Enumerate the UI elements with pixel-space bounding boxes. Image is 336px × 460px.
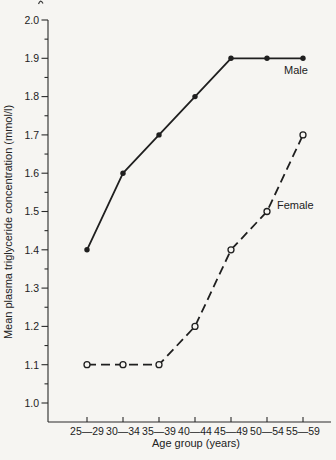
- male-line: [87, 58, 303, 250]
- male-marker: [84, 247, 89, 252]
- x-tick-label: 25—29: [70, 425, 104, 437]
- y-tick-label: 1.7: [24, 129, 39, 141]
- y-tick-label: 1.2: [24, 320, 39, 332]
- female-series-label: Female: [277, 199, 314, 211]
- male-marker: [192, 94, 197, 99]
- female-marker: [84, 362, 90, 368]
- x-tick-label: 35—39: [142, 425, 176, 437]
- y-tick-label: 1.9: [24, 52, 39, 64]
- series-group: [84, 56, 306, 368]
- male-marker: [120, 171, 125, 176]
- triglyceride-chart-figure: 1.01.11.21.31.41.51.61.71.81.92.025—2930…: [0, 0, 336, 460]
- x-axis-title: Age group (years): [152, 437, 240, 449]
- y-tick-label: 2.0: [24, 14, 39, 26]
- y-axis-title: Mean plasma triglyceride concentration (…: [2, 105, 14, 339]
- male-marker: [156, 132, 161, 137]
- female-marker: [192, 323, 198, 329]
- female-marker: [156, 362, 162, 368]
- x-tick-label: 45—49: [214, 425, 248, 437]
- male-marker: [300, 56, 305, 61]
- female-line: [87, 135, 303, 365]
- chart-svg: 1.01.11.21.31.41.51.61.71.81.92.025—2930…: [0, 0, 336, 460]
- female-marker: [228, 247, 234, 253]
- male-marker: [264, 56, 269, 61]
- female-marker: [300, 132, 306, 138]
- axes-group: 1.01.11.21.31.41.51.61.71.81.92.025—2930…: [24, 14, 331, 437]
- x-tick-label: 30—34: [106, 425, 140, 437]
- axis-lines: [48, 20, 331, 422]
- x-tick-label: 55—59: [286, 425, 320, 437]
- male-marker: [228, 56, 233, 61]
- x-tick-label: 40—44: [178, 425, 212, 437]
- print-artifact: [39, 1, 44, 4]
- male-series-label: Male: [284, 64, 308, 76]
- y-tick-label: 1.4: [24, 244, 39, 256]
- y-tick-label: 1.1: [24, 359, 39, 371]
- x-tick-label: 50—54: [250, 425, 284, 437]
- y-tick-label: 1.5: [24, 205, 39, 217]
- y-tick-label: 1.0: [24, 397, 39, 409]
- y-tick-label: 1.3: [24, 282, 39, 294]
- y-tick-label: 1.8: [24, 90, 39, 102]
- female-marker: [264, 209, 270, 215]
- female-marker: [120, 362, 126, 368]
- y-tick-label: 1.6: [24, 167, 39, 179]
